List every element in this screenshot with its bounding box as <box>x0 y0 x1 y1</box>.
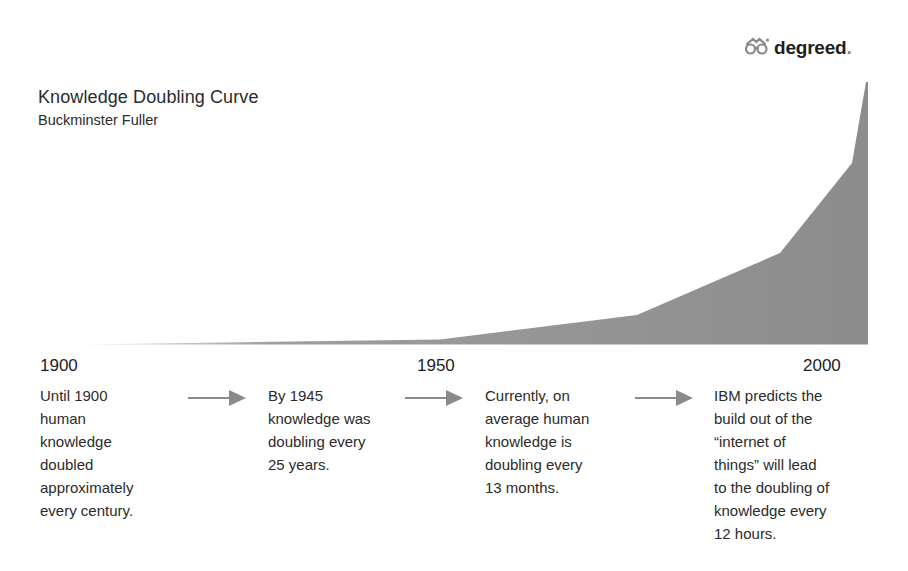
year-label-1950: 1950 <box>417 356 455 376</box>
year-label-1900: 1900 <box>40 356 78 376</box>
knowledge-area <box>80 82 868 345</box>
arrow-right-icon <box>404 388 464 412</box>
knowledge-area-chart <box>0 0 908 360</box>
caption-ibm-prediction: IBM predicts the build out of the “inter… <box>714 384 829 545</box>
year-label-2000: 2000 <box>803 356 841 376</box>
caption-current: Currently, on average human knowledge is… <box>485 384 589 499</box>
arrow-right-icon <box>634 388 694 412</box>
caption-1945: By 1945 knowledge was doubling every 25 … <box>268 384 371 476</box>
caption-1900: Until 1900 human knowledge doubled appro… <box>40 384 133 522</box>
arrow-right-icon <box>187 388 247 412</box>
